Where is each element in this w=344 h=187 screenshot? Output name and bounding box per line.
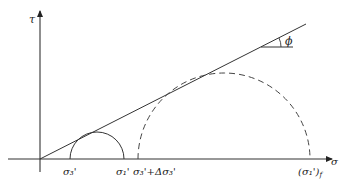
sigma3-plus-delta-label: σ₃'+Δσ₃' xyxy=(133,166,176,177)
failure-mohr-circle xyxy=(138,73,310,159)
sigma1-failure-label: (σ₁')f xyxy=(298,166,323,179)
tau-axis-label: τ xyxy=(29,13,36,26)
sigma-axis-label: σ xyxy=(331,156,339,167)
sigma3-label: σ₃' xyxy=(63,166,77,177)
sigma1-label: σ₁' xyxy=(116,166,130,177)
phi-label: ϕ xyxy=(285,35,293,48)
mohr-coulomb-diagram: ϕ τ σ σ₃' σ₁' σ₃'+Δσ₃' (σ₁')f xyxy=(0,0,344,187)
failure-envelope-line xyxy=(40,24,306,159)
phi-angle-arc xyxy=(279,38,281,47)
initial-mohr-circle xyxy=(70,132,124,159)
